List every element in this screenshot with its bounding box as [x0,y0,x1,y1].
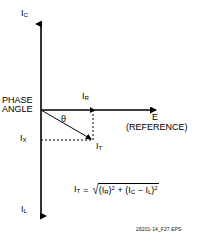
formula-equals: = [83,185,88,195]
ir-tip-marker [90,107,95,113]
label-reference: (REFERENCE) [126,123,188,132]
formula-lhs: IT [74,184,80,194]
label-ir: IR [82,92,89,102]
label-ic: IC [21,9,28,19]
figure-canvas: IC IL E (REFERENCE) PHASE ANGLE IX IR IT… [0,0,204,243]
label-il: IL [21,205,27,215]
formula-it: IT = √ (IR)2 + (IC − IL)2 [74,183,159,196]
radical-sign: √ [92,183,98,196]
radical-body: (IR)2 + (IC − IL)2 [98,183,159,196]
figure-caption: 26201-14_F27.EPS [136,227,182,232]
label-it: IT [96,142,102,152]
phase-angle-line2: ANGLE [2,105,33,114]
label-theta: θ [61,115,66,124]
label-ix: IX [20,134,27,144]
formula-radical: √ (IR)2 + (IC − IL)2 [92,183,159,196]
label-phase-angle: PHASE ANGLE [2,96,33,115]
